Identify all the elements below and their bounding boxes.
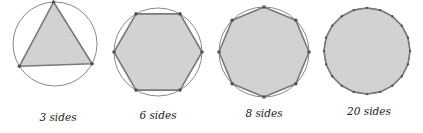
panel-8-sides [217, 5, 311, 99]
panel-3-sides [13, 0, 97, 86]
vertex-dot [391, 15, 393, 17]
vertex-dot [200, 50, 204, 54]
label-8-sides: 8 sides [245, 107, 282, 119]
vertex-dot [90, 62, 94, 66]
vertex-dot [341, 85, 343, 87]
vertex-dot [134, 88, 138, 92]
vertex-dot [379, 91, 381, 93]
vertex-dot [262, 95, 266, 99]
inscribed-polygons-diagram: 3 sides 6 sides 8 sides 20 sides [0, 0, 423, 133]
vertex-dot [341, 15, 343, 17]
vertex-dot [366, 93, 368, 95]
vertex-dot [230, 82, 234, 86]
vertex-dot [353, 9, 355, 11]
vertex-dot [178, 12, 182, 16]
vertex-dot [391, 85, 393, 87]
vertex-dot [294, 82, 298, 86]
inscribed-polygon [114, 14, 202, 90]
label-6-sides: 6 sides [139, 109, 176, 121]
vertex-dot [230, 18, 234, 22]
vertex-dot [331, 25, 333, 27]
vertex-dot [407, 63, 409, 65]
vertex-dot [18, 64, 22, 68]
vertex-dot [366, 7, 368, 9]
vertex-dot [323, 50, 325, 52]
inscribed-polygon [324, 8, 410, 94]
label-3-sides: 3 sides [39, 111, 76, 123]
vertex-dot [325, 63, 327, 65]
vertex-dot [262, 5, 266, 9]
vertex-dot [217, 50, 221, 54]
vertex-dot [52, 0, 56, 4]
vertex-dot [325, 37, 327, 39]
panel-20-sides [323, 7, 411, 95]
vertex-dot [331, 75, 333, 77]
vertex-dot [353, 91, 355, 93]
vertex-dot [401, 75, 403, 77]
vertex-dot [307, 50, 311, 54]
vertex-dot [379, 9, 381, 11]
vertex-dot [294, 18, 298, 22]
panel-6-sides [112, 8, 204, 96]
vertex-dot [178, 88, 182, 92]
vertex-dot [409, 50, 411, 52]
vertex-dot [401, 25, 403, 27]
vertex-dot [407, 37, 409, 39]
label-20-sides: 20 sides [347, 105, 391, 117]
vertex-dot [134, 12, 138, 16]
vertex-dot [112, 50, 116, 54]
